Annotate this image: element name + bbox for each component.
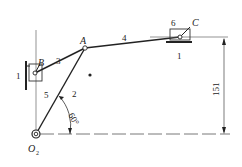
angle-arrow-end xyxy=(68,128,72,134)
pivot-o2-inner xyxy=(34,132,38,136)
label-frame-left: 1 xyxy=(16,71,21,81)
label-frame-right: 1 xyxy=(177,51,182,61)
dimension-arrow-top xyxy=(222,38,226,45)
angle-arrow-start xyxy=(59,96,64,100)
mass-center-dot xyxy=(88,73,91,76)
label-o2-subscript: 2 xyxy=(36,150,39,156)
label-link-4: 4 xyxy=(122,33,127,43)
label-b: B xyxy=(38,57,44,68)
dimension-arrow-bottom xyxy=(222,127,226,134)
label-slider-6: 6 xyxy=(171,18,176,28)
label-crank-2: 2 xyxy=(72,89,77,99)
label-slider-5: 5 xyxy=(44,90,49,100)
joint-b xyxy=(33,71,37,75)
label-a: A xyxy=(79,35,87,46)
label-o2: O xyxy=(28,143,35,154)
label-dimension: 151 xyxy=(211,83,221,97)
joint-c xyxy=(178,35,182,39)
joint-a xyxy=(83,46,87,50)
label-link-3: 3 xyxy=(56,56,61,66)
label-c: C xyxy=(192,17,199,28)
link-4 xyxy=(85,37,180,48)
mechanism-diagram: A B C O 2 1 1 2 3 4 5 6 60° 151 xyxy=(0,0,242,167)
